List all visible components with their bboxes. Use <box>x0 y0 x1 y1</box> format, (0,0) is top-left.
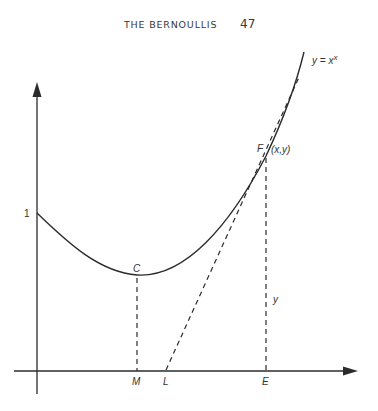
point-E-label: E <box>262 376 269 387</box>
point-L-label: L <box>163 376 169 387</box>
xx-curve-diagram: y = xx 1 C F (x,y) M L E y <box>0 0 378 411</box>
curve-x-to-x <box>37 52 304 275</box>
y-intercept-label: 1 <box>24 208 30 219</box>
tangent-line-LF <box>166 75 300 370</box>
point-F-label: F <box>257 143 264 154</box>
point-C-label: C <box>133 263 141 274</box>
y-axis-arrow-icon <box>33 82 42 97</box>
point-F-coords: (x,y) <box>271 144 290 155</box>
curve-label: y = xx <box>311 53 338 66</box>
x-axis-arrow-icon <box>343 367 358 376</box>
segment-y-label: y <box>272 294 279 305</box>
point-M-label: M <box>132 376 141 387</box>
